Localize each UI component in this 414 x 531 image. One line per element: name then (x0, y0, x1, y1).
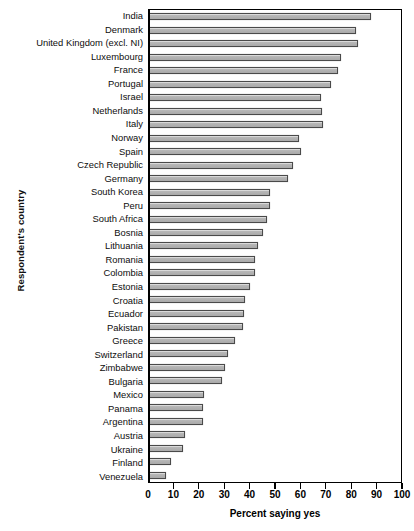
bar (150, 121, 323, 128)
category-label: Peru (18, 199, 147, 213)
bar-row (150, 91, 401, 104)
bar-row (150, 172, 401, 185)
category-label: Venezuela (18, 470, 147, 484)
bar (150, 202, 270, 209)
bar-row (150, 131, 401, 144)
x-tick-label: 100 (394, 489, 411, 500)
bar (150, 310, 244, 317)
bar-row (150, 442, 401, 455)
category-label: South Africa (18, 212, 147, 226)
bar-row (150, 104, 401, 117)
y-axis-tick-labels: IndiaDenmarkUnited Kingdom (excl. NI)Lux… (18, 9, 147, 483)
x-tick-label: 0 (145, 489, 151, 500)
category-label: Lithuania (18, 239, 147, 253)
bar (150, 283, 250, 290)
bar-row (150, 428, 401, 441)
bar-row (150, 334, 401, 347)
bar (150, 67, 338, 74)
x-axis-title: Percent saying yes (148, 508, 402, 519)
bar (150, 162, 293, 169)
bar (150, 94, 321, 101)
bar (150, 175, 288, 182)
category-label: Mexico (18, 388, 147, 402)
category-label: Luxembourg (18, 50, 147, 64)
x-axis-tick-labels: 0102030405060708090100 (148, 489, 402, 503)
bar (150, 458, 171, 465)
x-tick-label: 50 (269, 489, 280, 500)
category-label: Croatia (18, 293, 147, 307)
bar (150, 189, 270, 196)
x-tick-label: 10 (168, 489, 179, 500)
bar-row (150, 307, 401, 320)
bar-row (150, 185, 401, 198)
bar (150, 337, 235, 344)
category-label: Romania (18, 253, 147, 267)
category-label: Austria (18, 429, 147, 443)
bar (150, 54, 341, 61)
category-label: Germany (18, 172, 147, 186)
x-tick-label: 60 (295, 489, 306, 500)
bar (150, 350, 228, 357)
bar-row (150, 77, 401, 90)
bar (150, 216, 267, 223)
category-label: South Korea (18, 185, 147, 199)
bar (150, 27, 356, 34)
category-label: Bosnia (18, 226, 147, 240)
category-label: Czech Republic (18, 158, 147, 172)
bar-row (150, 37, 401, 50)
bar (150, 431, 185, 438)
bar (150, 445, 183, 452)
bar-row (150, 239, 401, 252)
bar-row (150, 266, 401, 279)
bar (150, 296, 245, 303)
bar-row (150, 50, 401, 63)
x-tick-label: 90 (371, 489, 382, 500)
category-label: Greece (18, 334, 147, 348)
category-label: Panama (18, 402, 147, 416)
bar-row (150, 468, 401, 481)
category-label: Netherlands (18, 104, 147, 118)
bar (150, 391, 204, 398)
bar (150, 242, 258, 249)
category-label: Finland (18, 456, 147, 470)
x-tick-label: 30 (219, 489, 230, 500)
bar-row (150, 280, 401, 293)
bar (150, 148, 301, 155)
bar (150, 472, 166, 479)
bar-row (150, 145, 401, 158)
bar-row (150, 415, 401, 428)
bar (150, 323, 243, 330)
bar-row (150, 226, 401, 239)
bar (150, 256, 255, 263)
bar-row (150, 253, 401, 266)
category-label: Colombia (18, 266, 147, 280)
bar-row (150, 401, 401, 414)
category-label: Zimbabwe (18, 361, 147, 375)
bar (150, 108, 322, 115)
x-tick-label: 40 (244, 489, 255, 500)
bar-row (150, 320, 401, 333)
x-tick-label: 20 (193, 489, 204, 500)
bar (150, 418, 203, 425)
bar-row (150, 293, 401, 306)
bar (150, 364, 225, 371)
category-label: Denmark (18, 23, 147, 37)
bar (150, 377, 222, 384)
bar-series (150, 10, 401, 482)
x-tick-label: 70 (320, 489, 331, 500)
category-label: Pakistan (18, 321, 147, 335)
bar-row (150, 361, 401, 374)
bar (150, 40, 358, 47)
category-label: India (18, 9, 147, 23)
category-label: Norway (18, 131, 147, 145)
horizontal-bar-chart: Respondent's country IndiaDenmarkUnited … (0, 0, 414, 531)
bar-row (150, 374, 401, 387)
category-label: Ecuador (18, 307, 147, 321)
bar-row (150, 455, 401, 468)
category-label: Switzerland (18, 348, 147, 362)
bar-row (150, 347, 401, 360)
category-label: Italy (18, 117, 147, 131)
bar-row (150, 158, 401, 171)
bar-row (150, 23, 401, 36)
bar (150, 135, 299, 142)
